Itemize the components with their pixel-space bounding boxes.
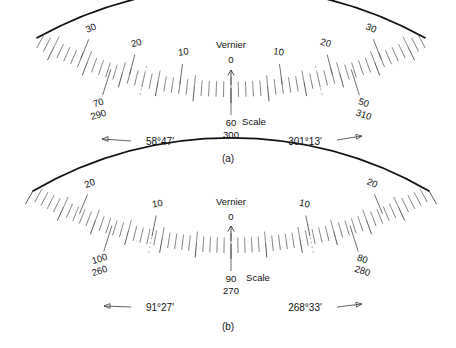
scale-tick-minor <box>113 227 116 236</box>
scale-tick-minor <box>86 218 89 226</box>
vernier-label-a: Vernier <box>216 39 246 50</box>
vernier-tick-major <box>298 227 300 238</box>
scale-tick-minor <box>414 43 418 51</box>
vernier-tick-major <box>394 197 399 207</box>
vernier-tick-major <box>96 210 100 220</box>
scale-tick-minor <box>133 232 135 241</box>
vernier-tick-minor <box>392 47 395 53</box>
vernier-tick-minor <box>57 198 60 204</box>
vernier-label-leader <box>306 215 310 236</box>
vernier-tick-major <box>302 70 304 81</box>
vernier-tick-minor <box>67 47 70 53</box>
vernier-tick-major <box>162 227 164 238</box>
scale-tick-minor <box>35 194 39 202</box>
scale-tick-minor <box>171 84 172 93</box>
scale-tick-major <box>47 47 54 60</box>
scale-tick-minor <box>347 227 350 236</box>
scale-tick-major <box>160 238 163 253</box>
scale-tick-minor <box>201 87 202 96</box>
vernier-tick-label: 30 <box>364 21 378 35</box>
scale-tick-minor <box>361 66 364 75</box>
scale-label-leader <box>104 226 112 252</box>
vernier-tick-minor <box>414 192 417 198</box>
vernier-tick-minor <box>365 58 367 64</box>
scale-tick-major <box>340 73 344 87</box>
scale-tick-minor <box>91 64 94 72</box>
vernier-tick-minor <box>352 63 354 69</box>
vernier-tick-minor <box>101 60 103 66</box>
scale-tick-minor <box>320 234 322 243</box>
scale-tick-minor <box>307 237 309 246</box>
vernier-tick-minor <box>310 74 311 80</box>
scale-tick-major <box>304 81 307 96</box>
vernier-tick-label: 10 <box>151 197 164 210</box>
vernier-tick-minor <box>83 209 85 215</box>
vernier-tick-minor <box>115 220 117 226</box>
vernier-tick-minor <box>108 63 110 69</box>
vernier-tick-minor <box>151 74 152 80</box>
scale-tick-minor <box>373 218 376 226</box>
scale-tick-major <box>57 207 63 221</box>
scale-tick-minor <box>347 71 350 80</box>
vernier-tick-minor <box>45 192 48 198</box>
vernier-tick-minor <box>411 38 414 44</box>
vernier-label-leader <box>180 64 183 85</box>
vernier-tick-minor <box>272 235 273 241</box>
vernier-tick-major <box>196 232 197 243</box>
vernier-tick-minor <box>74 50 77 56</box>
vernier-tick-minor <box>274 79 275 85</box>
scale-tick-minor <box>113 71 116 80</box>
scale-tick-major <box>82 61 87 75</box>
scale-tick-major <box>429 191 437 204</box>
vernier-tick-minor <box>358 60 360 66</box>
scale-tick-minor <box>140 234 142 243</box>
scale-tick-minor <box>66 210 70 218</box>
scale-tick-label-lower: 310 <box>355 107 373 122</box>
vernier-tick-minor <box>292 233 293 239</box>
vernier-tick-minor <box>399 44 402 50</box>
scale-tick-major <box>195 242 196 257</box>
vernier-tick-minor <box>109 218 111 224</box>
scale-tick-minor <box>340 229 342 238</box>
scale-tick-label-lower: 270 <box>223 285 239 296</box>
vernier-tick-major <box>363 210 367 220</box>
caption-a: (a) <box>222 153 234 164</box>
vernier-tick-label: 30 <box>84 21 98 35</box>
scale-tick-minor <box>360 222 363 231</box>
vernier-tick-minor <box>115 65 117 71</box>
scale-tick-minor <box>127 75 129 84</box>
scale-tick-minor <box>182 241 183 250</box>
scale-tick-major <box>374 61 379 75</box>
vernier-tick-minor <box>383 207 386 213</box>
dotted-reference-tick <box>316 66 323 97</box>
panel-b-text: Vernier 0 Scale 91°27′ 268°33′ (b) <box>104 196 362 332</box>
vernier-tick-label: 20 <box>365 176 379 190</box>
reading-right-a: 301°13′ <box>288 136 322 147</box>
scale-tick-minor <box>411 201 415 209</box>
vernier-tick-major <box>267 75 268 86</box>
scale-tick-minor <box>77 59 80 67</box>
vernier-tick-minor <box>102 216 104 222</box>
vernier-index-arrow <box>228 226 234 241</box>
vernier-tick-label: 10 <box>177 45 189 57</box>
scale-tick-minor <box>353 225 356 234</box>
scale-tick-minor <box>325 77 327 86</box>
vernier-label-leader <box>79 194 87 213</box>
scale-tick-minor <box>64 53 68 61</box>
vernier-tick-major <box>403 37 408 47</box>
vernier-tick-minor <box>408 195 411 201</box>
vernier-tick-minor <box>190 235 191 241</box>
scale-tick-label-lower: 280 <box>353 263 371 278</box>
scale-tick-minor <box>327 232 329 241</box>
vernier-tick-minor <box>351 218 353 224</box>
vernier-label-leader <box>373 39 381 58</box>
vernier-label-leader <box>152 215 156 236</box>
scale-tick-minor <box>164 83 165 92</box>
vernier-tick-minor <box>305 230 306 236</box>
vernier-tick-major <box>64 197 69 207</box>
vernier-tick-major <box>265 232 266 243</box>
vernier-tick-minor <box>296 76 297 82</box>
scale-tick-minor <box>147 235 149 244</box>
scale-tick-major <box>125 231 129 245</box>
scale-tick-minor <box>79 215 82 223</box>
